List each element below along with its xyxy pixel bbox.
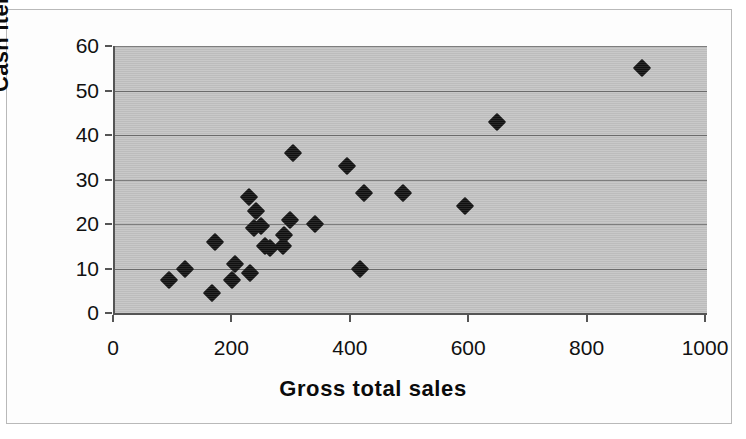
gridline-y-30 [115,180,707,181]
data-point [176,259,194,277]
x-tick-mark-600 [467,315,469,322]
y-tick-label: 30 [76,169,99,190]
y-tick-mark-50 [105,90,112,92]
y-tick-mark-10 [105,268,112,270]
gridline-y-40 [115,135,707,136]
data-point [206,233,224,251]
y-tick-label: 0 [87,302,99,323]
x-tick-label: 800 [569,337,604,358]
x-tick-label: 400 [332,337,367,358]
x-tick-label: 1000 [682,337,729,358]
data-point [306,215,324,233]
y-tick-mark-60 [105,45,112,47]
figure-container: 0102030405060 02004006008001000 Cash ite… [0,0,746,439]
y-tick-label: 60 [76,35,99,56]
data-point [354,184,372,202]
gridline-y-10 [115,269,707,270]
data-point [284,144,302,162]
x-tick-label: 200 [214,337,249,358]
x-axis-label: Gross total sales [0,376,746,402]
y-tick-mark-0 [105,312,112,314]
data-point [160,270,178,288]
x-tick-label: 600 [451,337,486,358]
data-point [488,112,506,130]
gridline-y-50 [115,91,707,92]
data-point [241,264,259,282]
plot-area [113,46,707,315]
data-point [223,270,241,288]
gridline-y-60 [115,46,707,47]
gridline-y-20 [115,224,707,225]
y-tick-label: 40 [76,124,99,145]
y-tick-label: 20 [76,213,99,234]
x-tick-mark-400 [349,315,351,322]
data-point [456,197,474,215]
x-tick-mark-200 [230,315,232,322]
x-tick-mark-800 [586,315,588,322]
x-tick-mark-1000 [704,315,706,322]
data-point [203,284,221,302]
y-tick-label: 50 [76,80,99,101]
data-point [394,184,412,202]
data-point [633,59,651,77]
y-tick-label: 10 [76,258,99,279]
data-point [338,157,356,175]
y-axis-label: Cash items [0,0,14,92]
data-point [351,259,369,277]
y-tick-mark-40 [105,134,112,136]
y-tick-mark-20 [105,223,112,225]
y-tick-mark-30 [105,179,112,181]
x-tick-mark-0 [112,315,114,322]
x-tick-label: 0 [107,337,119,358]
